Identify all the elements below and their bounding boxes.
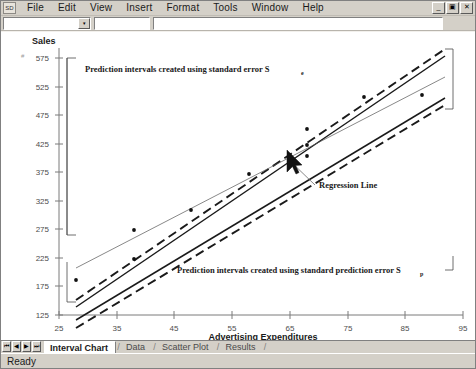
restore-icon[interactable]: ▣ bbox=[446, 2, 459, 14]
interval-chart: Sales # 125 175 225 bbox=[1, 32, 475, 340]
data-point bbox=[420, 93, 424, 97]
y-axis-labels: 125 175 225 275 325 375 425 475 525 575 bbox=[36, 54, 50, 320]
status-bar: Ready bbox=[1, 353, 475, 368]
data-point bbox=[74, 278, 78, 282]
chart-workspace[interactable]: Sales # 125 175 225 bbox=[1, 31, 475, 340]
y-axis-title: Sales bbox=[32, 36, 56, 46]
y-tick-425: 425 bbox=[36, 140, 50, 149]
se-annotation: Prediction intervals created using stand… bbox=[85, 64, 304, 76]
lower-confidence-band bbox=[76, 98, 445, 320]
data-point bbox=[132, 257, 136, 261]
sp-leader-bracket bbox=[445, 49, 453, 109]
style-combo-box[interactable]: ▾ bbox=[3, 17, 91, 30]
close-glyph: ✕ bbox=[461, 2, 472, 12]
data-point bbox=[305, 143, 309, 147]
y-tick-175: 175 bbox=[36, 282, 50, 291]
tab-nav-buttons: ⏮ ◀ ▶ ⏭ bbox=[2, 341, 41, 352]
x-tick-35: 35 bbox=[113, 324, 122, 333]
y-tick-525: 525 bbox=[36, 83, 50, 92]
tab-scatter-plot[interactable]: Scatter Plot bbox=[157, 341, 216, 353]
sheet-tab-strip: ⏮ ◀ ▶ ⏭ Interval Chart / Data / Scatter … bbox=[1, 340, 475, 353]
window-controls: _ ▣ ✕ bbox=[432, 2, 473, 14]
tab-divider: / bbox=[263, 341, 268, 353]
data-point bbox=[362, 95, 366, 99]
restore-glyph: ▣ bbox=[447, 2, 458, 12]
data-point bbox=[305, 154, 309, 158]
toolbar-field-one[interactable] bbox=[94, 17, 150, 30]
menu-item-format[interactable]: Format bbox=[159, 1, 206, 15]
toolbar-field-two[interactable] bbox=[153, 17, 443, 30]
y-tick-325: 325 bbox=[36, 197, 50, 206]
x-tick-85: 85 bbox=[401, 324, 410, 333]
x-axis-title: Advertising Expenditures bbox=[208, 332, 317, 340]
regression-line bbox=[76, 77, 445, 268]
sp-annotation: Prediction intervals created using stand… bbox=[177, 265, 424, 277]
tab-interval-chart[interactable]: Interval Chart bbox=[44, 341, 116, 353]
menu-item-edit[interactable]: Edit bbox=[51, 1, 83, 15]
menu-item-insert[interactable]: Insert bbox=[119, 1, 159, 15]
regression-line-annotation: Regression Line bbox=[288, 159, 377, 190]
y-tick-475: 475 bbox=[36, 111, 50, 120]
tab-results[interactable]: Results bbox=[221, 341, 263, 353]
x-tick-75: 75 bbox=[344, 324, 353, 333]
sp-annotation-subscript: p bbox=[420, 271, 424, 277]
data-point bbox=[132, 228, 136, 232]
upper-prediction-band bbox=[76, 49, 445, 300]
sp-annotation-text: Prediction intervals created using stand… bbox=[177, 265, 401, 275]
sp-leader-tail bbox=[445, 256, 453, 270]
se-annotation-text: Prediction intervals created using stand… bbox=[85, 64, 270, 74]
regression-line-annotation-text: Regression Line bbox=[319, 180, 377, 190]
lower-prediction-band bbox=[76, 105, 445, 328]
menu-item-file[interactable]: File bbox=[20, 1, 51, 15]
chevron-down-icon[interactable]: ▾ bbox=[78, 18, 90, 29]
se-bottom-bracket bbox=[67, 262, 76, 302]
next-sheet-icon[interactable]: ▶ bbox=[22, 341, 31, 352]
se-annotation-subscript: e bbox=[301, 70, 304, 76]
menu-item-window[interactable]: Window bbox=[245, 1, 296, 15]
y-tick-275: 275 bbox=[36, 225, 50, 234]
menu-item-help[interactable]: Help bbox=[296, 1, 331, 15]
application-icon[interactable]: SD bbox=[3, 2, 16, 14]
application-window: SD File Edit View Insert Format Tools Wi… bbox=[0, 0, 476, 369]
status-text: Ready bbox=[7, 356, 36, 367]
minimize-glyph: _ bbox=[433, 2, 444, 12]
y-tick-575: 575 bbox=[36, 54, 50, 63]
menu-bar: SD File Edit View Insert Format Tools Wi… bbox=[1, 1, 475, 16]
data-point bbox=[189, 208, 193, 212]
first-sheet-icon[interactable]: ⏮ bbox=[2, 341, 11, 352]
menu-item-view[interactable]: View bbox=[83, 1, 119, 15]
minimize-icon[interactable]: _ bbox=[432, 2, 445, 14]
y-tick-125: 125 bbox=[36, 311, 50, 320]
x-tick-95: 95 bbox=[459, 324, 468, 333]
x-tick-45: 45 bbox=[170, 324, 179, 333]
tab-data[interactable]: Data bbox=[121, 341, 152, 353]
se-leader-bracket bbox=[67, 58, 76, 235]
previous-sheet-icon[interactable]: ◀ bbox=[12, 341, 21, 352]
menu-item-tools[interactable]: Tools bbox=[206, 1, 244, 15]
corner-marker-icon: # bbox=[21, 53, 25, 59]
y-tick-225: 225 bbox=[36, 254, 50, 263]
data-point bbox=[305, 127, 309, 131]
last-sheet-icon[interactable]: ⏭ bbox=[32, 341, 41, 352]
y-tick-375: 375 bbox=[36, 168, 50, 177]
se-lower-bracket bbox=[67, 58, 76, 235]
close-icon[interactable]: ✕ bbox=[460, 2, 473, 14]
x-tick-25: 25 bbox=[55, 324, 64, 333]
data-point bbox=[247, 172, 251, 176]
toolbar: ▾ bbox=[1, 16, 475, 31]
